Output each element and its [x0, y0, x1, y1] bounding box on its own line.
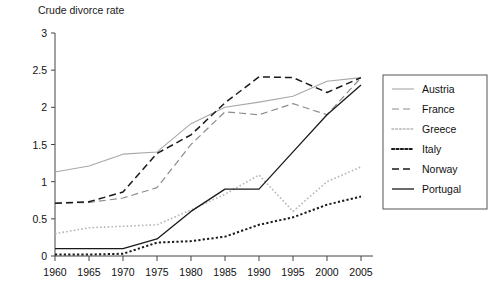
x-tick-label: 1960 [43, 266, 67, 278]
x-axis: 1960196519701975198019851990199520002005 [43, 256, 373, 278]
chart-root: Crude divorce rate 00.511.522.53 1960196… [0, 0, 495, 292]
y-tick-label: 2.5 [32, 64, 47, 76]
series-line-italy [55, 197, 361, 255]
series-layer [55, 77, 361, 255]
series-line-austria [55, 78, 361, 172]
legend-label-portugal: Portugal [422, 183, 461, 195]
y-tick-label: 3 [41, 27, 47, 39]
x-tick-label: 1995 [281, 266, 305, 278]
y-tick-label: 0.5 [32, 213, 47, 225]
series-line-norway [55, 77, 361, 203]
y-axis: 00.511.522.53 [32, 27, 55, 262]
y-tick-label: 2 [41, 101, 47, 113]
y-tick-label: 1 [41, 176, 47, 188]
legend-label-austria: Austria [422, 83, 455, 95]
legend-label-france: France [422, 103, 455, 115]
y-tick-label: 1.5 [32, 139, 47, 151]
legend-label-greece: Greece [422, 123, 457, 135]
legend-label-italy: Italy [422, 143, 442, 155]
x-tick-label: 1965 [77, 266, 101, 278]
series-line-france [55, 78, 361, 204]
x-tick-label: 2005 [349, 266, 373, 278]
x-tick-label: 2000 [315, 266, 339, 278]
x-tick-label: 1970 [111, 266, 135, 278]
x-tick-label: 1980 [179, 266, 203, 278]
legend-label-norway: Norway [422, 163, 458, 175]
chart-canvas: 00.511.522.53 19601965197019751980198519… [0, 0, 495, 292]
y-tick-label: 0 [41, 250, 47, 262]
series-line-portugal [55, 85, 361, 249]
x-tick-label: 1990 [247, 266, 271, 278]
x-tick-label: 1985 [213, 266, 237, 278]
x-tick-label: 1975 [145, 266, 169, 278]
chart-legend: AustriaFranceGreeceItalyNorwayPortugal [383, 75, 487, 209]
